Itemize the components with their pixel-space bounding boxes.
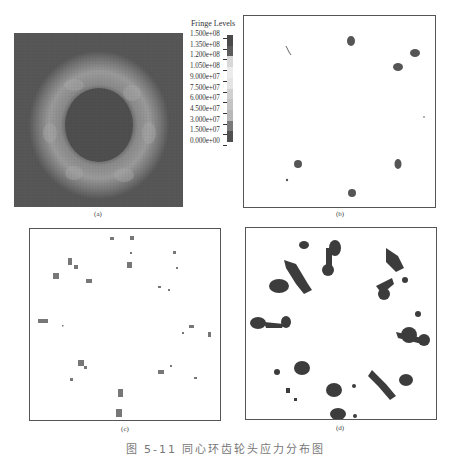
colorbar-segment bbox=[227, 131, 233, 142]
legend-level-label: 1.500e+08 bbox=[190, 30, 220, 38]
colorbar-segment bbox=[227, 78, 233, 89]
colorbar-segment bbox=[227, 35, 233, 46]
colorbar-segment bbox=[227, 67, 233, 78]
legend-level-label: 7.500e+07 bbox=[190, 84, 220, 92]
colorbar-segment bbox=[227, 99, 233, 110]
colorbar-segment bbox=[227, 89, 233, 100]
legend-level-label: 1.050e+08 bbox=[190, 62, 220, 70]
legend-title: Fringe Levels bbox=[188, 19, 238, 28]
legend-level-label: 1.500e+07 bbox=[190, 126, 220, 134]
panel-c-plot bbox=[29, 228, 221, 421]
colorbar-segment bbox=[227, 56, 233, 67]
panel-a-fringe-plot bbox=[14, 33, 183, 207]
legend-level-label: 4.500e+07 bbox=[190, 105, 220, 113]
legend-level-label: 9.000e+07 bbox=[190, 73, 220, 81]
figure-caption: 图 5-11 同心环齿轮头应力分布图 bbox=[0, 440, 451, 456]
panel-b-label: (b) bbox=[320, 210, 360, 218]
panel-b-image bbox=[244, 16, 435, 207]
colorbar bbox=[227, 35, 233, 142]
colorbar-segment bbox=[227, 121, 233, 132]
fringe-plot-image bbox=[14, 33, 183, 207]
legend-level-label: 6.000e+07 bbox=[190, 94, 220, 102]
legend-level-label: 1.350e+08 bbox=[190, 41, 220, 49]
legend-level-label: 1.200e+08 bbox=[190, 51, 220, 59]
colorbar-segment bbox=[227, 46, 233, 57]
fringe-legend: Fringe Levels 1.500e+081.350e+081.200e+0… bbox=[186, 19, 238, 28]
panel-d-plot bbox=[245, 227, 437, 420]
panel-c-label: (c) bbox=[105, 425, 145, 433]
colorbar-segment bbox=[227, 110, 233, 121]
panel-d-label: (d) bbox=[320, 424, 360, 432]
legend-level-label: 0.000e+00 bbox=[190, 137, 220, 145]
legend-level-label: 3.000e+07 bbox=[190, 116, 220, 124]
panel-c-image bbox=[30, 229, 220, 420]
panel-b-plot bbox=[243, 15, 436, 208]
panel-d-image bbox=[246, 228, 436, 419]
legend-tick bbox=[223, 145, 227, 146]
panel-a-label: (a) bbox=[78, 210, 118, 218]
